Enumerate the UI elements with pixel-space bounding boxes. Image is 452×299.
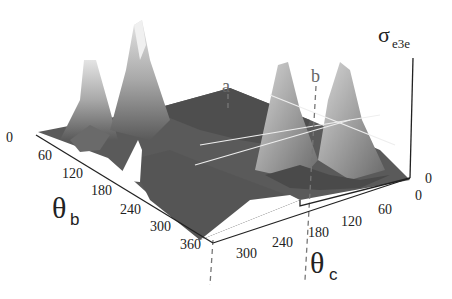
theta-b-label: θ b [52, 191, 79, 229]
svg-text:180: 180 [91, 183, 112, 198]
z-axis-label: σ e3e [378, 22, 410, 51]
surface-plot: a b 0 60 120 180 240 300 360 θ b 0 60 12… [0, 0, 452, 299]
svg-text:300: 300 [236, 246, 257, 261]
marker-b-label: b [311, 66, 320, 86]
svg-text:0: 0 [6, 130, 13, 145]
svg-text:e3e: e3e [392, 36, 410, 51]
svg-text:0: 0 [415, 188, 422, 203]
svg-text:360: 360 [180, 237, 201, 252]
svg-text:θ: θ [310, 246, 324, 279]
svg-text:300: 300 [150, 219, 171, 234]
svg-text:240: 240 [120, 202, 141, 217]
svg-text:c: c [329, 265, 338, 284]
svg-text:b: b [70, 210, 79, 229]
svg-text:σ: σ [378, 22, 390, 47]
svg-text:θ: θ [52, 191, 66, 224]
svg-text:240: 240 [272, 235, 293, 250]
theta-c-label: θ c [310, 246, 338, 284]
peaks-left [60, 20, 170, 152]
svg-text:120: 120 [341, 214, 362, 229]
svg-text:180: 180 [308, 225, 329, 240]
svg-text:120: 120 [62, 166, 83, 181]
svg-text:60: 60 [38, 148, 52, 163]
z-tick-0: 0 [425, 171, 432, 186]
marker-a-label: a [222, 76, 230, 96]
svg-text:60: 60 [378, 202, 392, 217]
